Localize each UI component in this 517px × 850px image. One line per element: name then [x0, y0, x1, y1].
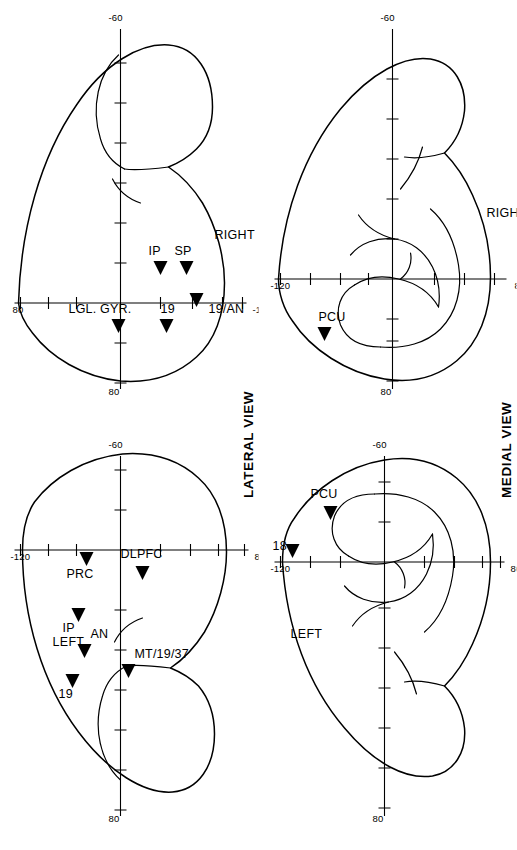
marker-ip	[71, 608, 85, 622]
marker-pcu	[323, 506, 337, 520]
axis-label-x-left: 80	[372, 813, 383, 824]
figure-canvas: RIGHT SP IP 19/AN 19 LGL. GYR. 80 -60 80…	[0, 0, 517, 850]
axis-label-x-right: -60	[372, 439, 386, 450]
axis-lines	[14, 29, 246, 389]
site-label-18: 18	[272, 539, 286, 553]
axis-label-x-left: 80	[108, 386, 119, 397]
panel-lateral-left: LEFT DLPFC PRC IP AN 19 MT/19/37 80 -60 …	[0, 425, 258, 850]
axis-lines	[274, 29, 506, 389]
activation-markers	[317, 327, 331, 341]
activation-markers	[285, 506, 337, 558]
axis-label-y-top: -120	[10, 551, 30, 562]
axis-label-y-bottom: 80	[254, 551, 258, 562]
view-title-medial: MEDIAL VIEW	[498, 402, 513, 498]
site-label-lgl-gyr: LGL. GYR.	[68, 302, 131, 316]
marker-pcu	[317, 327, 331, 341]
axis-label-y-bottom: -120	[252, 304, 258, 315]
axis-label-y-top: -120	[270, 563, 290, 574]
site-label-19: 19	[58, 687, 72, 701]
marker-19	[65, 674, 79, 688]
site-label-ip: IP	[62, 621, 74, 635]
site-label-pcu: PCU	[310, 487, 337, 501]
axis-label-x-right: -60	[108, 12, 122, 23]
marker-19	[159, 319, 173, 333]
brain-outline-medial-left	[282, 459, 490, 777]
marker-dlpfc	[135, 566, 149, 580]
axis-label-y-bottom: 80	[514, 280, 516, 291]
site-label-19an: 19/AN	[208, 302, 244, 316]
marker-sp	[179, 261, 193, 275]
brain-outline-medial-right	[278, 58, 490, 380]
site-label-mt: MT/19/37	[134, 647, 188, 661]
marker-ip	[153, 261, 167, 275]
panel-text: RIGHT SP IP 19/AN 19 LGL. GYR. 80 -60 80…	[12, 12, 258, 397]
marker-mt	[121, 664, 135, 678]
axis-label-y-top: -120	[270, 280, 290, 291]
panel-text: LEFT DLPFC PRC IP AN 19 MT/19/37 80 -60 …	[10, 439, 258, 824]
marker-19an	[189, 293, 203, 307]
marker-lgl	[111, 319, 125, 333]
axis-label-x-right: -60	[380, 12, 394, 23]
panel-medial-left: LEFT PCU 18 80 -60 -120 80	[258, 425, 516, 850]
axis-label-x-left: 80	[108, 813, 119, 824]
hemisphere-label: LEFT	[52, 635, 84, 649]
site-label-pcu: PCU	[318, 310, 345, 324]
site-label-ip: IP	[148, 244, 160, 258]
hemisphere-label: RIGHT	[486, 206, 516, 220]
axis-label-x-right: -60	[108, 439, 122, 450]
axis-label-x-left: 80	[380, 386, 391, 397]
site-label-sp: SP	[174, 244, 191, 258]
axis-lines	[14, 456, 248, 816]
view-title-lateral: LATERAL VIEW	[240, 391, 255, 498]
panel-medial-right: RIGHT PCU 80 -60 -120 80	[258, 0, 516, 425]
marker-18	[285, 544, 299, 558]
activation-markers	[111, 261, 203, 333]
marker-prc	[79, 552, 93, 566]
axis-label-y-top: 80	[12, 304, 23, 315]
brain-outline-lateral-left	[22, 454, 226, 792]
panel-text: LEFT PCU 18 80 -60 -120 80	[270, 439, 516, 824]
site-label-prc: PRC	[66, 567, 93, 581]
panel-lateral-right: RIGHT SP IP 19/AN 19 LGL. GYR. 80 -60 80…	[0, 0, 258, 425]
site-label-an: AN	[90, 627, 108, 641]
axis-label-y-bottom: 80	[510, 563, 516, 574]
site-label-dlpfc: DLPFC	[120, 547, 162, 561]
hemisphere-label: RIGHT	[214, 228, 254, 242]
hemisphere-label: LEFT	[290, 627, 322, 641]
site-label-19: 19	[160, 302, 174, 316]
